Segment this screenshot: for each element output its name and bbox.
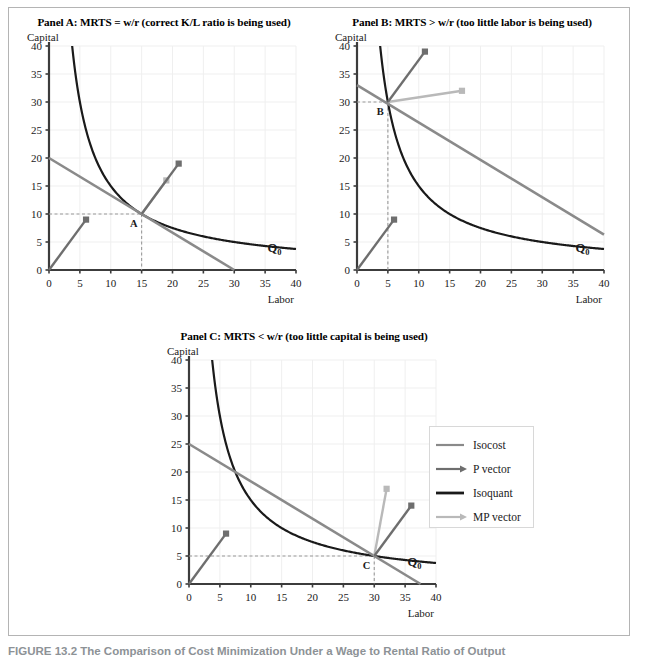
x-tick-label: 30 <box>537 277 549 289</box>
y-tick-label: 15 <box>339 180 351 192</box>
x-tick-label: 0 <box>46 277 52 289</box>
legend-label-isoquant: Isoquant <box>473 487 513 500</box>
legend-label-p-vector: P vector <box>473 463 511 475</box>
p-vector-line <box>189 534 226 584</box>
x-tick-label: 40 <box>291 277 303 289</box>
legend: IsocostP vectorIsoquantMP vector <box>429 426 534 528</box>
y-tick-label: 30 <box>31 96 43 108</box>
y-tick-label: 25 <box>339 124 351 136</box>
x-tick-label: 15 <box>276 591 288 603</box>
y-tick-label: 30 <box>339 96 351 108</box>
panel-c-title: Panel C: MRTS < w/r (too little capital … <box>159 330 449 342</box>
x-tick-label: 10 <box>245 591 257 603</box>
x-tick-label: 5 <box>77 277 83 289</box>
x-tick-label: 15 <box>444 277 456 289</box>
y-tick-label: 0 <box>37 264 43 276</box>
panel-a: Panel A: MRTS = w/r (correct K/L ratio i… <box>19 16 309 316</box>
mp-vector-marker <box>384 486 390 492</box>
y-tick-label: 0 <box>345 264 351 276</box>
isoquant-label: Q0 <box>407 555 421 571</box>
y-tick-label: 35 <box>171 382 183 394</box>
x-tick-label: 20 <box>167 277 179 289</box>
x-tick-label: 40 <box>599 277 611 289</box>
y-tick-label: 5 <box>345 236 351 248</box>
y-tick-label: 25 <box>171 438 183 450</box>
mp-vector-marker <box>459 88 465 94</box>
panel-b: Panel B: MRTS > w/r (too little labor is… <box>327 16 617 316</box>
x-tick-label: 20 <box>307 591 319 603</box>
x-tick-label: 0 <box>354 277 360 289</box>
y-tick-label: 25 <box>31 124 43 136</box>
x-tick-label: 10 <box>413 277 425 289</box>
p-vector-marker <box>223 531 229 537</box>
x-tick-label: 10 <box>105 277 117 289</box>
y-tick-label: 15 <box>31 180 43 192</box>
figure-frame: Panel A: MRTS = w/r (correct K/L ratio i… <box>8 7 630 636</box>
x-tick-label: 25 <box>338 591 350 603</box>
x-tick-label: 35 <box>260 277 272 289</box>
y-axis-label: Capital <box>167 345 199 357</box>
x-tick-label: 40 <box>431 591 443 603</box>
p-vector-at-point-marker <box>408 503 414 509</box>
y-tick-label: 20 <box>339 152 351 164</box>
legend-label-isocost: Isocost <box>473 439 506 451</box>
y-tick-label: 10 <box>171 522 183 534</box>
tangency-point-label: C <box>363 560 371 571</box>
p-vector-at-point-marker <box>422 49 428 55</box>
mp-vector-line <box>388 91 462 102</box>
legend-label-mp-vector: MP vector <box>473 511 521 523</box>
p-vector-marker <box>391 217 397 223</box>
p-vector-line <box>357 220 394 270</box>
tangency-point-label: A <box>130 218 138 229</box>
x-axis-label: Labor <box>408 607 435 619</box>
isoquant-curve <box>72 46 296 249</box>
isoquant-label: Q0 <box>267 241 281 257</box>
legend-arrowhead-mp-vector <box>460 513 467 520</box>
figure-caption: FIGURE 13.2 The Comparison of Cost Minim… <box>8 645 638 657</box>
x-tick-label: 30 <box>369 591 381 603</box>
x-tick-label: 20 <box>475 277 487 289</box>
panel-a-title: Panel A: MRTS = w/r (correct K/L ratio i… <box>19 16 309 28</box>
y-tick-label: 20 <box>171 466 183 478</box>
y-tick-label: 30 <box>171 410 183 422</box>
panel-a-plot: 05101520253035400510152025303540CapitalL… <box>19 28 309 306</box>
y-tick-label: 0 <box>177 578 183 590</box>
y-tick-label: 15 <box>171 494 183 506</box>
x-tick-label: 30 <box>229 277 241 289</box>
panel-c-plot: 05101520253035400510152025303540CapitalL… <box>159 342 449 620</box>
x-tick-label: 15 <box>136 277 148 289</box>
x-tick-label: 25 <box>506 277 518 289</box>
isoquant-label: Q0 <box>575 241 589 257</box>
x-tick-label: 0 <box>186 591 192 603</box>
panel-b-plot: 05101520253035400510152025303540CapitalL… <box>327 28 617 306</box>
y-tick-label: 10 <box>31 208 43 220</box>
panel-b-title: Panel B: MRTS > w/r (too little labor is… <box>327 16 617 28</box>
x-tick-label: 5 <box>385 277 391 289</box>
isocost-line <box>189 444 421 584</box>
x-axis-label: Labor <box>268 293 295 305</box>
y-tick-label: 5 <box>37 236 43 248</box>
panel-c: Panel C: MRTS < w/r (too little capital … <box>159 330 449 630</box>
x-tick-label: 25 <box>198 277 210 289</box>
x-tick-label: 35 <box>400 591 412 603</box>
y-tick-label: 10 <box>339 208 351 220</box>
p-vector-at-point-marker <box>176 161 182 167</box>
y-axis-label: Capital <box>27 31 59 43</box>
x-axis-label: Labor <box>576 293 603 305</box>
p-vector-at-point-line <box>142 164 179 214</box>
legend-arrowhead-p-vector <box>460 465 467 472</box>
legend-content: IsocostP vectorIsoquantMP vector <box>430 427 533 527</box>
p-vector-at-point-line <box>388 52 425 102</box>
isoquant-curve <box>212 360 436 563</box>
x-tick-label: 5 <box>217 591 223 603</box>
y-axis-label: Capital <box>335 31 367 43</box>
figure-container: Panel A: MRTS = w/r (correct K/L ratio i… <box>0 0 645 659</box>
y-tick-label: 35 <box>31 68 43 80</box>
p-vector-line <box>49 220 86 270</box>
y-tick-label: 35 <box>339 68 351 80</box>
y-tick-label: 20 <box>31 152 43 164</box>
y-tick-label: 5 <box>177 550 183 562</box>
tangency-point-label: B <box>377 106 384 117</box>
isoquant-curve <box>380 46 604 249</box>
p-vector-marker <box>83 217 89 223</box>
